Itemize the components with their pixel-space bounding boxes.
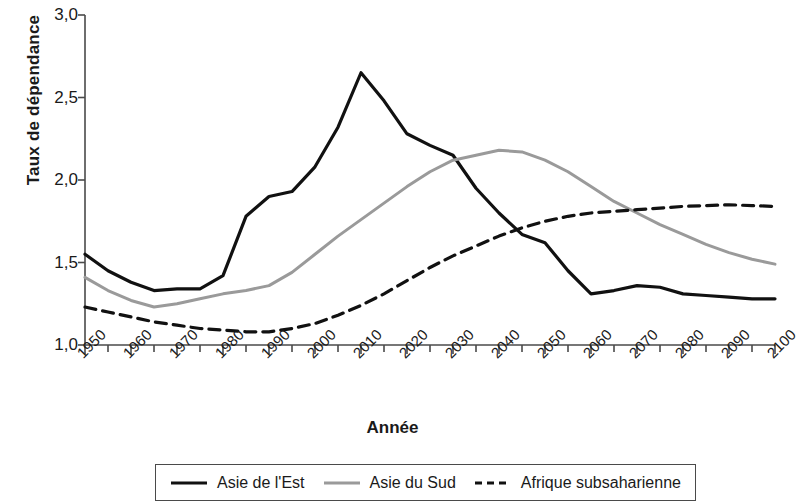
plot-area xyxy=(85,15,775,345)
legend-swatch-1 xyxy=(170,476,208,490)
y-axis-tick-label: 3,0 xyxy=(34,6,78,23)
legend-swatch-2 xyxy=(323,476,361,490)
legend-label: Asie du Sud xyxy=(370,475,456,491)
legend-label: Afrique subsaharienne xyxy=(521,475,681,491)
y-axis-tick-labels: 1,01,52,02,53,0 xyxy=(20,0,78,360)
x-axis-title: Année xyxy=(0,418,785,438)
chart-legend: Asie de l'EstAsie du SudAfrique subsahar… xyxy=(155,464,696,501)
y-axis-tick-label: 2,5 xyxy=(34,89,78,106)
plot-svg xyxy=(85,15,775,345)
series-line-1 xyxy=(85,73,775,299)
y-axis-tick-label: 1,5 xyxy=(34,254,78,271)
series-line-3 xyxy=(85,205,775,332)
legend-item: Asie du Sud xyxy=(323,475,456,491)
legend-item: Afrique subsaharienne xyxy=(474,475,681,491)
series-line-2 xyxy=(85,150,775,307)
x-axis-tick-label: 1950 xyxy=(74,326,108,360)
legend-label: Asie de l'Est xyxy=(217,475,305,491)
y-axis-tick-label: 2,0 xyxy=(34,171,78,188)
x-axis-tick-labels: 1950196019701980199020002010202020302040… xyxy=(0,350,785,412)
legend-swatch-3 xyxy=(474,476,512,490)
legend-item: Asie de l'Est xyxy=(170,475,305,491)
